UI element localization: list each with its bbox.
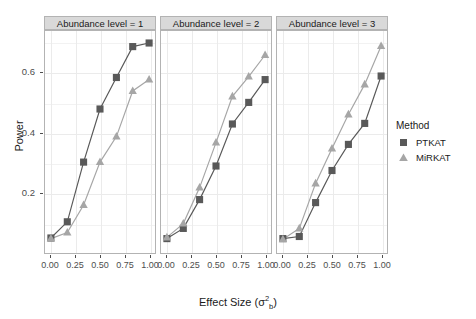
- y-tick-label: 0.4: [5, 128, 35, 138]
- x-tick-mark: [307, 255, 308, 258]
- x-axis-title: Effect Size (σ2b): [0, 294, 476, 311]
- data-point-mirkat: [145, 75, 153, 83]
- data-point-ptkat: [212, 162, 219, 169]
- data-point-mirkat: [344, 110, 352, 118]
- data-point-mirkat: [261, 50, 269, 58]
- facet-panel: Abundance level = 2: [160, 30, 272, 254]
- data-point-mirkat: [129, 86, 137, 94]
- data-point-ptkat: [312, 199, 319, 206]
- legend: Method PTKATMiRKAT: [396, 120, 472, 165]
- data-point-ptkat: [229, 120, 236, 127]
- data-point-ptkat: [64, 218, 71, 225]
- series-line-ptkat: [283, 76, 381, 239]
- y-tick-mark: [40, 72, 43, 73]
- data-point-mirkat: [328, 144, 336, 152]
- series-line-ptkat: [51, 43, 149, 238]
- x-tick-mark: [125, 255, 126, 258]
- x-tick-mark: [241, 255, 242, 258]
- data-point-mirkat: [195, 183, 203, 191]
- data-point-ptkat: [196, 196, 203, 203]
- y-tick-label: 0.2: [5, 188, 35, 198]
- faceted-power-chart: Power 0.20.40.6 Abundance level = 1Abund…: [0, 0, 476, 319]
- x-tick-mark: [266, 255, 267, 258]
- data-point-ptkat: [146, 39, 153, 46]
- data-point-ptkat: [328, 167, 335, 174]
- x-axis-title-suffix: ): [273, 296, 277, 308]
- x-tick-mark: [216, 255, 217, 258]
- legend-title: Method: [396, 120, 472, 131]
- data-point-mirkat: [63, 228, 71, 236]
- data-point-ptkat: [345, 141, 352, 148]
- y-tick-mark: [40, 193, 43, 194]
- x-tick-mark: [150, 255, 151, 258]
- series-line-mirkat: [167, 55, 265, 237]
- data-point-mirkat: [112, 132, 120, 140]
- x-tick-mark: [100, 255, 101, 258]
- legend-items: PTKATMiRKAT: [396, 135, 472, 165]
- x-axis-title-prefix: Effect Size (: [199, 296, 258, 308]
- data-point-ptkat: [80, 159, 87, 166]
- legend-item-label: PTKAT: [416, 137, 446, 148]
- data-point-ptkat: [96, 105, 103, 112]
- facet-panel: Abundance level = 1: [44, 30, 156, 254]
- x-tick-mark: [191, 255, 192, 258]
- data-point-mirkat: [311, 179, 319, 187]
- x-tick-mark: [332, 255, 333, 258]
- plot-area: [160, 30, 272, 254]
- plot-area: [276, 30, 388, 254]
- legend-item-mirkat[interactable]: MiRKAT: [396, 150, 472, 165]
- data-point-mirkat: [295, 224, 303, 232]
- data-point-mirkat: [96, 158, 104, 166]
- data-point-mirkat: [361, 80, 369, 88]
- x-tick-mark: [50, 255, 51, 258]
- data-point-ptkat: [245, 99, 252, 106]
- series-layer: [161, 31, 271, 253]
- data-point-ptkat: [262, 76, 269, 83]
- data-point-ptkat: [113, 74, 120, 81]
- facet-panel: Abundance level = 3: [276, 30, 388, 254]
- data-point-mirkat: [79, 200, 87, 208]
- data-point-ptkat: [129, 43, 136, 50]
- x-tick-label: 1.00: [367, 261, 397, 270]
- y-tick-mark: [40, 133, 43, 134]
- x-tick-mark: [382, 255, 383, 258]
- x-tick-mark: [357, 255, 358, 258]
- x-tick-mark: [75, 255, 76, 258]
- x-axis-title-symbol: σ: [258, 296, 265, 308]
- series-layer: [45, 31, 155, 253]
- plot-area: [44, 30, 156, 254]
- data-point-ptkat: [378, 72, 385, 79]
- x-tick-mark: [282, 255, 283, 258]
- facet-strip-label: Abundance level = 3: [276, 16, 388, 30]
- series-line-mirkat: [283, 46, 381, 239]
- y-tick-label: 0.6: [5, 67, 35, 77]
- data-point-ptkat: [361, 120, 368, 127]
- data-point-mirkat: [212, 138, 220, 146]
- data-point-mirkat: [377, 41, 385, 49]
- legend-item-ptkat[interactable]: PTKAT: [396, 135, 472, 150]
- series-layer: [277, 31, 387, 253]
- legend-item-label: MiRKAT: [416, 152, 451, 163]
- facet-strip-label: Abundance level = 2: [160, 16, 272, 30]
- facet-strip-label: Abundance level = 1: [44, 16, 156, 30]
- x-tick-mark: [166, 255, 167, 258]
- square-marker-icon: [396, 135, 411, 150]
- triangle-marker-icon: [396, 150, 411, 165]
- data-point-ptkat: [296, 233, 303, 240]
